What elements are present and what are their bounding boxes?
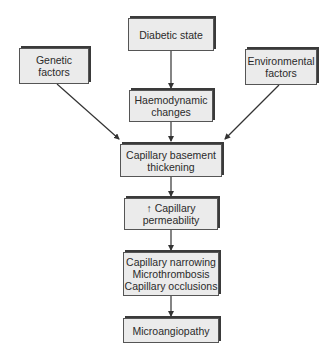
node-diabetic-state: Diabetic state: [128, 18, 214, 51]
node-haemodynamic-changes: Haemodynamic changes: [129, 90, 213, 122]
arrow-environmental-to-basement: [225, 85, 279, 139]
node-capillary-basement-thickening: Capillary basement thickening: [120, 144, 222, 177]
node-microangiopathy: Microangiopathy: [123, 318, 219, 343]
arrow-genetic-to-basement: [57, 84, 119, 139]
node-environmental-factors: Environmental factors: [245, 49, 317, 85]
flowchart-canvas: Diabetic state Genetic factors Environme…: [0, 0, 333, 363]
node-capillary-narrowing: Capillary narrowing Microthrombosis Capi…: [123, 252, 219, 296]
node-capillary-permeability: ↑ Capillary permeability: [124, 198, 218, 230]
node-genetic-factors: Genetic factors: [19, 48, 89, 84]
